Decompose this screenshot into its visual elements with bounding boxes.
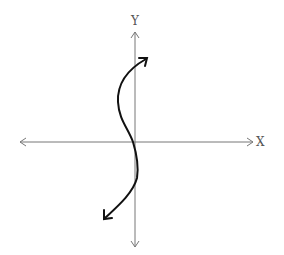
s-curve <box>105 59 146 218</box>
coordinate-diagram: Y X <box>0 0 284 255</box>
curve <box>104 58 147 219</box>
axes-and-curve <box>0 0 284 255</box>
y-axis-label: Y <box>131 15 139 27</box>
x-axis-label: X <box>256 136 265 148</box>
